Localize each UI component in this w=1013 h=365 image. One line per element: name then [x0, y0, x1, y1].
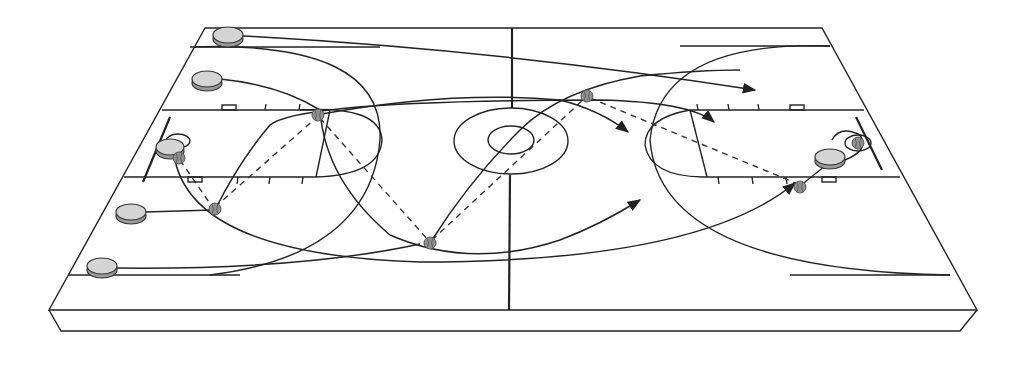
ball-b1	[173, 152, 185, 164]
ball-b2	[209, 203, 221, 215]
court-svg	[0, 0, 1013, 365]
player-p1[interactable]	[213, 27, 243, 47]
ball-b7	[852, 137, 864, 149]
ball-b4	[424, 237, 436, 249]
player-p4[interactable]	[116, 204, 146, 224]
ball-b6	[794, 181, 806, 193]
player-p2[interactable]	[192, 71, 222, 91]
play-diagram: Basketball fast-break play diagram	[0, 0, 1013, 365]
ball-b5	[581, 90, 593, 102]
ball-b3	[312, 109, 324, 121]
player-p5[interactable]	[87, 258, 117, 278]
